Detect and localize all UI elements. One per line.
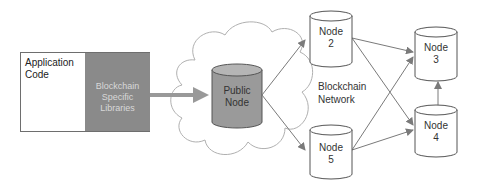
node-4-line2: 4 (415, 132, 457, 144)
node-5-line1: Node (310, 142, 352, 154)
node-2: Node 2 (310, 26, 352, 50)
blockchain-network-label: Blockchain Network (318, 80, 366, 106)
public-node-line1: Public (212, 85, 262, 97)
application-code-label: Application Code (25, 57, 85, 81)
node-5-line2: 5 (310, 154, 352, 166)
public-node-line2: Node (212, 97, 262, 109)
node-5: Node 5 (310, 142, 352, 166)
node-2-line2: 2 (310, 38, 352, 50)
node-2-line1: Node (310, 26, 352, 38)
blockchain-libraries-box: Blockchain Specific Libraries (85, 53, 150, 131)
network-label-line2: Network (318, 93, 366, 106)
node-3-line2: 3 (415, 54, 457, 66)
public-node: Public Node (212, 85, 262, 109)
node-4-line1: Node (415, 120, 457, 132)
application-box: Application Code Blockchain Specific Lib… (20, 52, 150, 132)
node-4: Node 4 (415, 120, 457, 144)
blockchain-libraries-label: Blockchain Specific Libraries (85, 81, 150, 114)
node-3: Node 3 (415, 42, 457, 66)
node-3-line1: Node (415, 42, 457, 54)
network-label-line1: Blockchain (318, 80, 366, 93)
